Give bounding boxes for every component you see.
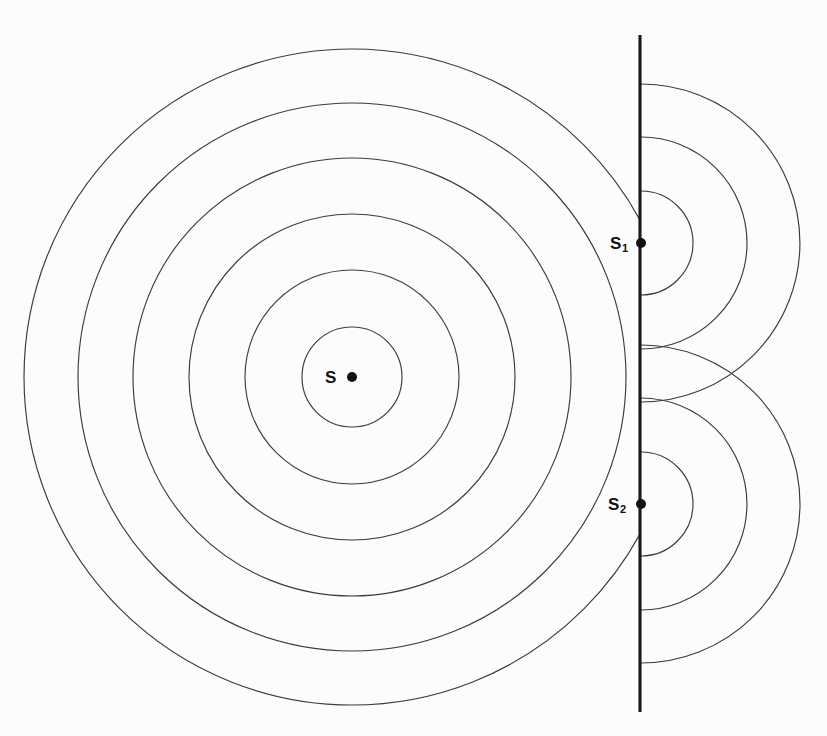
source-point-s2 (636, 499, 646, 509)
slit-one-wavefront-arc-3 (641, 84, 800, 402)
wavefront-diagram-figure: S S1 S2 (0, 0, 827, 736)
source-point-s (347, 372, 357, 382)
source-point-group (347, 238, 646, 509)
slit-two-label-text: S (608, 495, 620, 514)
slit-one-wavefront-arc-2 (641, 137, 747, 349)
slit-one-wavefront-group (641, 84, 800, 402)
slit-two-wavefront-group (641, 345, 800, 663)
diagram-canvas (0, 0, 827, 736)
slit-one-label-text: S (610, 234, 622, 253)
slit-two-wavefront-arc-3 (641, 345, 800, 663)
slit-two-label-subscript: 2 (620, 503, 626, 515)
slit-two-wavefront-arc-2 (641, 398, 747, 610)
primary-source-label-text: S (325, 368, 337, 387)
slit-one-label-subscript: 1 (622, 242, 628, 254)
source-point-s1 (636, 238, 646, 248)
slit-two-label: S2 (608, 495, 626, 515)
slit-one-wavefront-arc-1 (641, 191, 693, 295)
slit-two-wavefront-arc-1 (641, 452, 693, 556)
slit-one-label: S1 (610, 234, 628, 254)
primary-source-label: S (325, 368, 337, 388)
